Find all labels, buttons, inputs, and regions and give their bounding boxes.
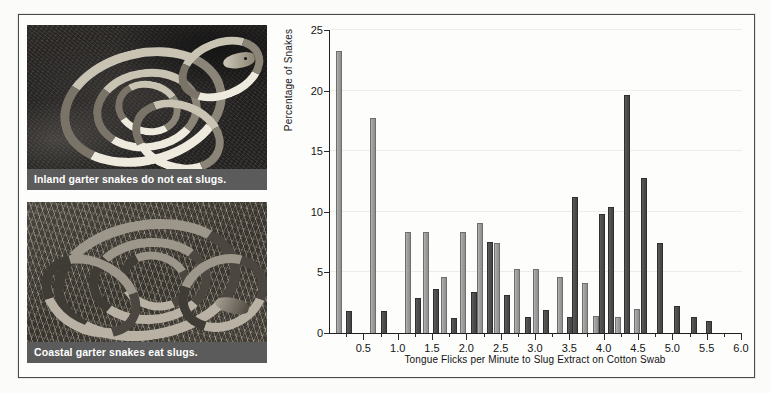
- x-tick-mark: [707, 333, 708, 340]
- chart-bar: [593, 316, 599, 333]
- x-tick-mark: [501, 333, 502, 340]
- chart-bar: [441, 277, 447, 333]
- chart-bar: [405, 232, 411, 333]
- chart-bar: [572, 197, 578, 333]
- chart-bar: [423, 232, 429, 333]
- chart-bar: [471, 292, 477, 333]
- y-axis-label: Percentage of Snakes: [283, 20, 294, 140]
- x-tick-label: 1.0: [390, 342, 405, 354]
- x-tick-mark: [672, 333, 673, 340]
- x-tick-mark: [569, 333, 570, 340]
- chart-bar: [624, 95, 630, 333]
- x-tick-mark-minor: [724, 333, 725, 337]
- x-tick-mark-minor: [655, 333, 656, 337]
- chart-bar: [543, 310, 549, 333]
- x-tick-mark-minor: [552, 333, 553, 337]
- x-axis-label: Tongue Flicks per Minute to Slug Extract…: [329, 354, 741, 365]
- tongue-flick-bar-chart: Percentage of Snakes 0510152025 0.51.01.…: [285, 22, 747, 370]
- chart-bar: [608, 207, 614, 333]
- x-tick-label: 3.5: [562, 342, 577, 354]
- x-tick-label: 5.5: [699, 342, 714, 354]
- y-tick-label: 25: [311, 24, 323, 36]
- x-tick-label: 2.0: [459, 342, 474, 354]
- x-tick-mark: [535, 333, 536, 340]
- x-tick-mark: [638, 333, 639, 340]
- chart-bar: [634, 309, 640, 333]
- coastal-garter-snake-photo: Coastal garter snakes eat slugs.: [27, 202, 267, 365]
- chart-bar: [346, 311, 352, 333]
- figure-page: Inland garter snakes do not eat slugs. C…: [0, 0, 771, 393]
- gridline: [330, 211, 742, 212]
- chart-bar: [370, 118, 376, 333]
- chart-bar: [599, 214, 605, 333]
- chart-bar: [415, 298, 421, 333]
- x-tick-mark: [741, 333, 742, 340]
- x-tick-mark-minor: [587, 333, 588, 337]
- y-tick-label: 10: [311, 206, 323, 218]
- y-tick-label: 15: [311, 145, 323, 157]
- chart-bar: [433, 289, 439, 333]
- photo-column: Inland garter snakes do not eat slugs. C…: [27, 25, 267, 365]
- chart-bar: [582, 283, 588, 333]
- gridline: [330, 150, 742, 151]
- x-tick-label: 3.0: [527, 342, 542, 354]
- chart-bar: [525, 317, 531, 333]
- y-tick-label: 0: [317, 327, 323, 339]
- chart-bar: [657, 243, 663, 333]
- snake-eye: [244, 57, 247, 60]
- x-tick-mark: [604, 333, 605, 340]
- chart-bar: [336, 51, 342, 333]
- y-tick-label: 20: [311, 85, 323, 97]
- coastal-photo-caption: Coastal garter snakes eat slugs.: [27, 342, 267, 363]
- inland-snake-image: [27, 25, 267, 169]
- x-tick-label: 4.5: [630, 342, 645, 354]
- gridline: [330, 90, 742, 91]
- inland-photo-caption: Inland garter snakes do not eat slugs.: [27, 169, 267, 190]
- x-tick-mark: [398, 333, 399, 340]
- x-tick-mark-minor: [346, 333, 347, 337]
- chart-bar: [504, 295, 510, 333]
- chart-bar: [691, 317, 697, 333]
- x-tick-mark: [432, 333, 433, 340]
- chart-bar: [641, 178, 647, 333]
- chart-bar: [477, 223, 483, 333]
- x-tick-mark-minor: [449, 333, 450, 337]
- x-tick-mark: [363, 333, 364, 340]
- chart-bar: [494, 243, 500, 333]
- x-tick-label: 0.5: [356, 342, 371, 354]
- gridline: [330, 29, 742, 30]
- x-tick-mark-minor: [381, 333, 382, 337]
- x-tick-mark: [466, 333, 467, 340]
- chart-bar: [460, 232, 466, 333]
- x-tick-mark-minor: [690, 333, 691, 337]
- x-tick-mark-minor: [484, 333, 485, 337]
- inland-garter-snake-photo: Inland garter snakes do not eat slugs.: [27, 25, 267, 191]
- chart-bar: [706, 321, 712, 333]
- x-tick-label: 6.0: [733, 342, 748, 354]
- chart-bar: [381, 311, 387, 333]
- x-tick-mark-minor: [518, 333, 519, 337]
- plot-area: [329, 30, 742, 334]
- x-tick-mark-minor: [415, 333, 416, 337]
- chart-bar: [615, 317, 621, 333]
- chart-bar: [557, 277, 563, 333]
- chart-bar: [451, 318, 457, 333]
- chart-bar: [674, 306, 680, 333]
- x-tick-label: 1.5: [424, 342, 439, 354]
- chart-bar: [487, 242, 493, 333]
- x-tick-label: 5.0: [665, 342, 680, 354]
- x-tick-mark-minor: [621, 333, 622, 337]
- x-tick-label: 2.5: [493, 342, 508, 354]
- coastal-snake-image: [27, 202, 267, 342]
- y-axis-ticks: 0510152025: [295, 22, 329, 333]
- y-tick-label: 5: [317, 266, 323, 278]
- chart-bar: [514, 269, 520, 333]
- chart-bar: [533, 269, 539, 333]
- x-tick-label: 4.0: [596, 342, 611, 354]
